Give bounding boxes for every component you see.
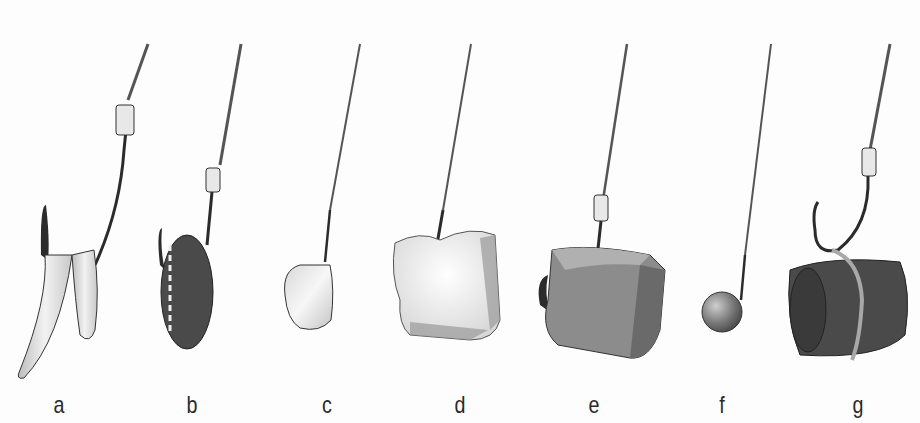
label-a: a	[47, 392, 72, 418]
hook-e	[539, 44, 665, 358]
hook-a	[18, 44, 148, 378]
hook-g	[789, 44, 908, 360]
hook-d	[393, 44, 500, 340]
label-c: c	[315, 392, 340, 418]
label-g: g	[846, 392, 871, 418]
label-d: d	[448, 392, 473, 418]
hook-c	[285, 44, 360, 329]
hooks-artwork	[0, 0, 920, 423]
label-e: e	[582, 392, 607, 418]
bait-illustration: a b c d e f g	[0, 0, 920, 423]
label-b: b	[180, 392, 205, 418]
hook-b	[158, 44, 241, 349]
label-f: f	[710, 392, 735, 418]
hook-f	[702, 44, 771, 332]
